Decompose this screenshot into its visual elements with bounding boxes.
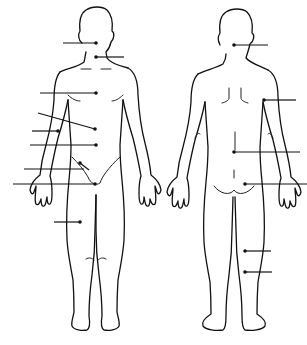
leader-dot-11 [232, 43, 236, 47]
back-head [219, 9, 269, 70]
back-buttocks [214, 170, 254, 193]
front-right-side [123, 68, 161, 206]
back-figure [167, 9, 301, 330]
back-left-torso [202, 102, 233, 330]
leader-dot-13 [232, 150, 236, 154]
back-right-torso [235, 102, 266, 330]
leader-dot-10 [78, 220, 82, 224]
leader-dot-3 [94, 91, 98, 95]
leader-dot-9 [93, 182, 97, 186]
leader-dot-16 [243, 270, 247, 274]
leader-dot-5 [56, 129, 60, 133]
leader-dot-2 [94, 55, 98, 59]
front-chest [68, 95, 123, 101]
leader-dot-1 [94, 41, 98, 45]
back-scapulae [222, 88, 248, 103]
leader-dot-15 [243, 249, 247, 253]
leader-dot-4 [93, 127, 97, 131]
back-neck-left [198, 54, 226, 74]
back-right-side [263, 70, 301, 208]
front-left-torso [67, 100, 96, 330]
leader-dot-14 [243, 182, 247, 186]
back-left-side [167, 74, 205, 208]
leader-dot-7 [78, 161, 82, 165]
front-groin [72, 157, 120, 184]
body-regions-diagram: anatomical body regions (blank labeling … [0, 0, 307, 345]
front-knees [86, 258, 106, 260]
front-right-torso [96, 100, 124, 330]
front-head [79, 7, 128, 68]
body-figures [0, 0, 307, 345]
front-left-side [30, 72, 68, 206]
leader-dot-6 [94, 143, 98, 147]
leader-dot-12 [262, 98, 266, 102]
leader-line-4 [38, 113, 95, 129]
